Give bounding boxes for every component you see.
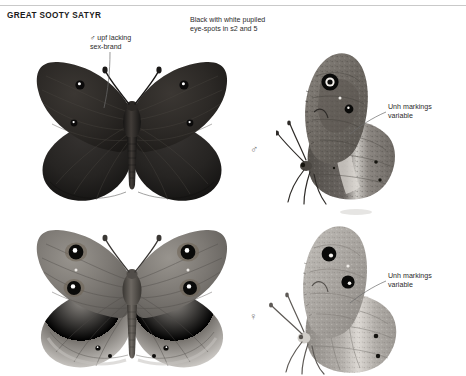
specimen-female-underside bbox=[268, 216, 402, 376]
annotation-unh-variable-male: Unh markings variable bbox=[388, 103, 432, 121]
specimen-female-upperside bbox=[14, 212, 250, 374]
specimen-male-upperside bbox=[18, 42, 246, 210]
page-title: GREAT SOOTY SATYR bbox=[7, 11, 101, 20]
male-symbol: ♂ bbox=[250, 144, 258, 155]
specimen-male-underside bbox=[276, 40, 398, 218]
header-divider bbox=[0, 5, 466, 6]
annotation-sex-brand: ♂ upf lacking sex-brand bbox=[90, 34, 131, 52]
field-guide-plate: GREAT SOOTY SATYR bbox=[0, 0, 466, 376]
female-symbol: ♀ bbox=[249, 311, 257, 322]
annotation-unh-variable-female: Unh markings variable bbox=[388, 272, 432, 290]
annotation-upperside-eyespots: Black with white pupiled eye-spots in s2… bbox=[190, 16, 265, 34]
